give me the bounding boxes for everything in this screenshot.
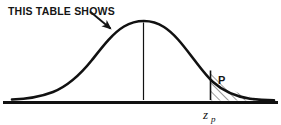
tail-probability-label: P [218,74,225,86]
axis-variable-label: z [202,107,208,122]
axis-variable-subscript-label: p [210,114,216,124]
normal-distribution-figure: THIS TABLE SHOWS P z p [0,0,281,125]
callout-label: THIS TABLE SHOWS [8,5,115,17]
distribution-chart-canvas: THIS TABLE SHOWS P z p [0,0,281,125]
